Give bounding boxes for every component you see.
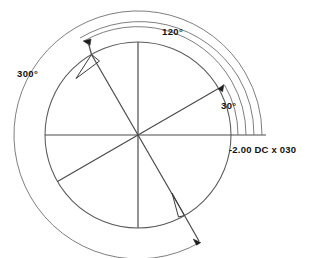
label-meridian-30: 30° — [221, 100, 236, 111]
label-prescription: -2.00 DC x 030 — [229, 144, 296, 155]
wedge-120-marker — [76, 55, 100, 79]
arc-120-companion — [80, 22, 238, 77]
wedge-300-leader — [185, 216, 200, 242]
label-meridian-120: 120° — [162, 26, 183, 37]
arrowhead-30-icon — [218, 85, 224, 92]
diagram-canvas — [0, 0, 319, 258]
label-meridian-300: 300° — [17, 68, 38, 79]
axis-meridian-diagram: 120° 300° 30° -2.00 DC x 030 — [0, 0, 319, 258]
arc-120-measure — [84, 27, 232, 81]
arrowhead-300-icon — [193, 239, 201, 245]
arrowhead-120-icon — [83, 39, 91, 46]
